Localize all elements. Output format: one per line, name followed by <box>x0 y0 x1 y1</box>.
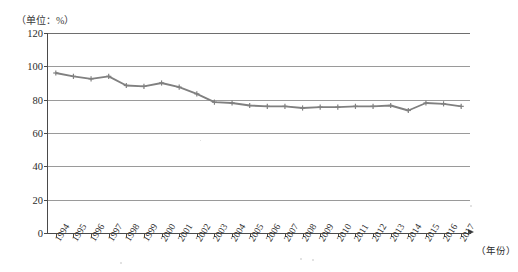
data-point-marker <box>423 100 428 105</box>
data-point-marker <box>265 104 270 109</box>
data-point-marker <box>300 105 305 110</box>
scan-speck <box>312 259 314 261</box>
scan-speck <box>470 205 472 207</box>
data-point-marker <box>53 70 58 75</box>
data-point-marker <box>335 105 340 110</box>
data-point-marker <box>159 80 164 85</box>
series-polyline <box>56 73 461 111</box>
data-point-marker <box>247 103 252 108</box>
data-point-marker <box>229 100 234 105</box>
scan-speck <box>120 262 122 264</box>
data-point-marker <box>441 101 446 106</box>
data-point-marker <box>88 76 93 81</box>
data-point-marker <box>353 104 358 109</box>
data-point-marker <box>318 105 323 110</box>
data-point-marker <box>459 104 464 109</box>
chart-figure: （单位：%） 120100806040200 19941995199619971… <box>0 0 518 272</box>
data-point-marker <box>282 104 287 109</box>
scan-speck <box>200 140 201 141</box>
data-point-marker <box>141 84 146 89</box>
data-point-marker <box>388 103 393 108</box>
data-point-marker <box>71 74 76 79</box>
data-point-marker <box>406 108 411 113</box>
scan-speck <box>300 258 302 260</box>
data-point-marker <box>177 85 182 90</box>
data-series-line <box>0 0 518 272</box>
data-point-marker <box>370 104 375 109</box>
